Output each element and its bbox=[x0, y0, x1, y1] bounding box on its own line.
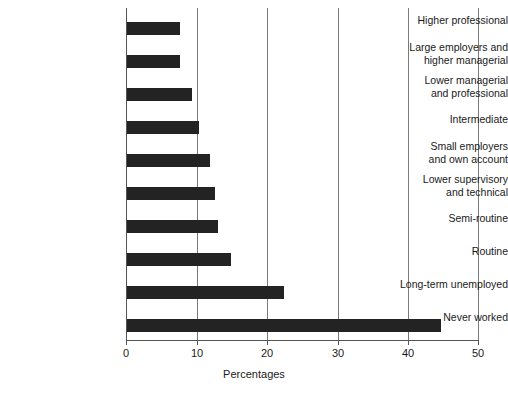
bar-lower-managerial bbox=[127, 88, 192, 101]
tick-mark-0 bbox=[126, 340, 127, 345]
category-label-lower-managerial: Lower managerial and professional bbox=[386, 74, 508, 99]
bar-chart: 0 10 20 30 40 50 Higher professional Lar… bbox=[0, 0, 508, 395]
x-tick-label-40: 40 bbox=[388, 347, 428, 360]
x-tick-label-20: 20 bbox=[247, 347, 287, 360]
bar-higher-professional bbox=[127, 22, 180, 35]
bar-small-employers bbox=[127, 154, 210, 167]
category-label-routine: Routine bbox=[386, 245, 508, 258]
tick-mark-50 bbox=[478, 340, 479, 345]
y-axis-line bbox=[126, 8, 127, 341]
bar-long-term-unemployed bbox=[127, 286, 284, 299]
x-tick-label-50: 50 bbox=[458, 347, 498, 360]
category-label-semi-routine: Semi-routine bbox=[386, 212, 508, 225]
x-axis-line bbox=[126, 340, 479, 341]
x-tick-label-30: 30 bbox=[318, 347, 358, 360]
x-tick-label-10: 10 bbox=[177, 347, 217, 360]
bar-routine bbox=[127, 253, 231, 266]
category-label-higher-professional: Higher professional bbox=[386, 14, 508, 27]
category-label-lower-supervisory: Lower supervisory and technical bbox=[386, 173, 508, 198]
x-axis-title: Percentages bbox=[0, 368, 508, 380]
gridline-30 bbox=[338, 8, 339, 340]
tick-mark-20 bbox=[267, 340, 268, 345]
category-label-long-term-unemployed: Long-term unemployed bbox=[386, 278, 508, 291]
tick-mark-30 bbox=[338, 340, 339, 345]
category-label-small-employers: Small employers and own account bbox=[386, 140, 508, 165]
category-label-intermediate: Intermediate bbox=[386, 113, 508, 126]
tick-mark-10 bbox=[197, 340, 198, 345]
category-label-never-worked: Never worked bbox=[386, 311, 508, 324]
bar-intermediate bbox=[127, 121, 199, 134]
x-tick-label-0: 0 bbox=[106, 347, 146, 360]
bar-large-employers bbox=[127, 55, 180, 68]
bar-lower-supervisory bbox=[127, 187, 215, 200]
tick-mark-40 bbox=[408, 340, 409, 345]
bar-semi-routine bbox=[127, 220, 218, 233]
category-label-large-employers: Large employers and higher managerial bbox=[386, 41, 508, 66]
